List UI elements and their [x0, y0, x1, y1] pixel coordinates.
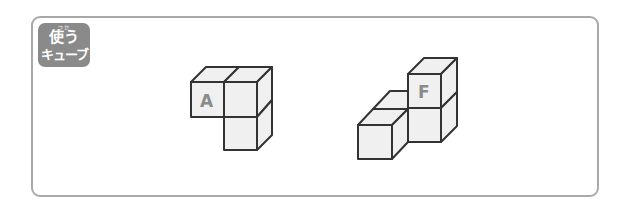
label-a: A	[200, 91, 214, 111]
figure-f	[358, 58, 457, 159]
cube-figures: A F	[0, 0, 628, 212]
label-f: F	[418, 82, 430, 102]
